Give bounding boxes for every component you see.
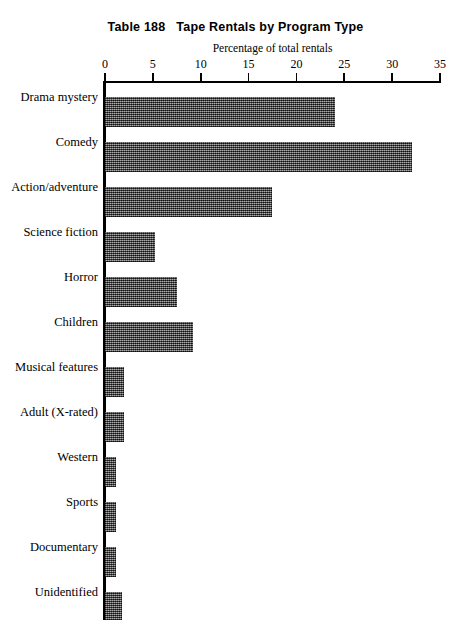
category-label: Adult (X-rated) <box>20 405 98 419</box>
bar <box>105 457 116 487</box>
x-tick-label: 30 <box>372 57 412 72</box>
x-tick-label: 5 <box>133 57 173 72</box>
bar <box>105 502 116 532</box>
category-label: Sports <box>66 495 98 509</box>
x-tick-label: 25 <box>324 57 364 72</box>
chart-row: Documentary <box>0 531 471 576</box>
category-label: Horror <box>64 270 98 284</box>
chart-row: Horror <box>0 261 471 306</box>
chart-row: Musical features <box>0 351 471 396</box>
category-label: Documentary <box>30 540 98 554</box>
category-label: Unidentified <box>35 585 98 599</box>
bar <box>105 547 116 577</box>
bar <box>105 142 412 172</box>
bar <box>105 367 124 397</box>
chart-row: Adult (X-rated) <box>0 396 471 441</box>
category-label: Drama mystery <box>21 90 98 104</box>
chart-row: Comedy <box>0 126 471 171</box>
chart-row: Action/adventure <box>0 171 471 216</box>
plot-area: Drama mysteryComedyAction/adventureScien… <box>0 81 471 620</box>
x-tick-label: 35 <box>420 57 460 72</box>
category-label: Children <box>54 315 98 329</box>
category-label: Musical features <box>15 360 98 374</box>
x-tick-label: 10 <box>181 57 221 72</box>
bar <box>105 187 272 217</box>
x-axis-title: Percentage of total rentals <box>105 42 440 54</box>
bar <box>105 412 124 442</box>
x-tick-label: 15 <box>229 57 269 72</box>
chart-row: Children <box>0 306 471 351</box>
category-label: Science fiction <box>23 225 98 239</box>
page-title: Table 188 Tape Rentals by Program Type <box>0 20 471 34</box>
x-tick-label: 0 <box>85 57 125 72</box>
chart-page: Table 188 Tape Rentals by Program Type P… <box>0 0 471 620</box>
bar <box>105 97 335 127</box>
bar <box>105 277 177 307</box>
chart-row: Unidentified <box>0 576 471 620</box>
chart-row: Science fiction <box>0 216 471 261</box>
x-tick-label: 20 <box>276 57 316 72</box>
bar <box>105 322 193 352</box>
chart-row: Western <box>0 441 471 486</box>
category-label: Action/adventure <box>11 180 98 194</box>
category-label: Western <box>57 450 98 464</box>
bar <box>105 232 155 262</box>
chart-row: Drama mystery <box>0 81 471 126</box>
chart-row: Sports <box>0 486 471 531</box>
bar <box>105 592 122 620</box>
category-label: Comedy <box>56 135 98 149</box>
